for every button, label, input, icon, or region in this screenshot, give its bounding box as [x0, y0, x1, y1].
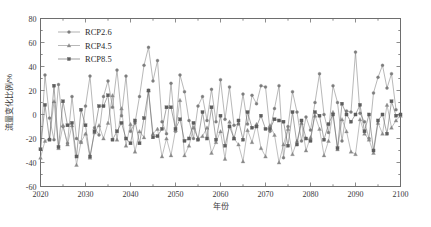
data-point	[277, 119, 280, 122]
data-point	[390, 100, 393, 103]
data-point	[84, 124, 87, 127]
data-point	[394, 114, 397, 117]
x-axis-title: 年份	[213, 201, 229, 211]
data-point	[210, 88, 213, 91]
data-point	[138, 142, 141, 145]
data-point	[250, 126, 253, 129]
data-point	[260, 84, 263, 87]
data-point	[61, 100, 64, 103]
data-point	[282, 120, 285, 123]
data-point	[386, 87, 389, 90]
data-point	[133, 119, 136, 122]
data-point	[372, 149, 375, 152]
data-point	[156, 135, 159, 138]
data-point	[165, 106, 168, 109]
data-point	[174, 127, 177, 130]
data-point	[201, 111, 204, 114]
data-point	[304, 137, 307, 140]
x-tick-label: 2050	[168, 190, 184, 199]
data-point	[309, 139, 312, 142]
data-point	[147, 89, 150, 92]
data-point	[340, 102, 343, 105]
data-point	[300, 139, 303, 142]
data-point	[268, 127, 271, 130]
data-point	[237, 119, 240, 122]
data-point	[192, 121, 195, 124]
data-point	[228, 85, 231, 88]
data-point	[246, 123, 249, 126]
data-point	[183, 90, 186, 93]
data-point	[142, 117, 145, 120]
x-tick-label: 2060	[213, 190, 229, 199]
data-point	[115, 130, 118, 133]
data-point	[48, 138, 51, 141]
line-chart: 202020302040205020602070208020902100 -60…	[0, 0, 431, 227]
data-point	[43, 103, 46, 106]
data-point	[192, 137, 195, 140]
data-point	[84, 105, 87, 108]
data-point	[88, 155, 91, 158]
y-tick-label: -20	[26, 135, 37, 144]
data-point	[75, 137, 78, 140]
data-point	[255, 125, 258, 128]
data-point	[385, 132, 388, 135]
data-point	[79, 108, 82, 111]
data-point	[215, 120, 218, 123]
data-point	[341, 139, 344, 142]
data-point	[125, 75, 128, 78]
data-point	[156, 59, 159, 62]
legend-label-rcp8.5: RCP8.5	[85, 54, 112, 64]
y-tick-label: 80	[29, 15, 37, 24]
data-point	[349, 120, 352, 123]
data-point	[377, 76, 380, 79]
data-point	[251, 94, 254, 97]
data-point	[116, 69, 119, 72]
data-point	[246, 111, 249, 114]
legend-marker-rcp8.5	[67, 57, 70, 60]
data-point	[75, 155, 78, 158]
data-point	[314, 101, 317, 104]
data-point	[205, 137, 208, 140]
data-point	[331, 113, 334, 116]
data-point	[286, 144, 289, 147]
data-point	[376, 119, 379, 122]
data-point	[44, 73, 47, 76]
legend-marker-rcp2.6	[68, 31, 71, 34]
data-point	[151, 136, 154, 139]
data-point	[197, 105, 200, 108]
data-point	[241, 138, 244, 141]
y-tick-label: -60	[26, 183, 37, 192]
data-point	[219, 78, 222, 81]
y-tick-label: 40	[29, 63, 37, 72]
data-point	[255, 102, 258, 105]
data-point	[210, 106, 213, 109]
data-point	[53, 138, 56, 141]
y-tick-label: -40	[26, 159, 37, 168]
data-point	[332, 84, 335, 87]
data-point	[318, 72, 321, 75]
data-point	[363, 130, 366, 133]
data-point	[206, 119, 209, 122]
x-tick-label: 2040	[123, 190, 139, 199]
data-point	[305, 115, 308, 118]
y-tick-label: 60	[29, 39, 37, 48]
data-point	[57, 145, 60, 148]
data-point	[219, 114, 222, 117]
data-point	[336, 101, 339, 104]
y-axis-title: 流量变化比例/%	[4, 74, 14, 131]
data-point	[93, 130, 96, 133]
data-point	[273, 107, 276, 110]
data-point	[52, 84, 55, 87]
data-point	[98, 133, 101, 136]
data-point	[120, 121, 123, 124]
data-point	[296, 111, 299, 114]
x-tick-label: 2030	[78, 190, 94, 199]
data-point	[106, 94, 109, 97]
data-point	[395, 108, 398, 111]
chart-figure: 202020302040205020602070208020902100 -60…	[0, 0, 431, 227]
data-point	[242, 93, 245, 96]
data-point	[367, 113, 370, 116]
data-point	[111, 138, 114, 141]
data-point	[124, 137, 127, 140]
y-tick-label: 0	[33, 111, 37, 120]
